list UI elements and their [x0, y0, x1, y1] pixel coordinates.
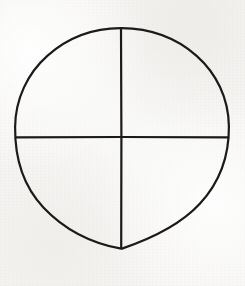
- quadrant-upper-right: [121, 28, 228, 137]
- quadrant-lower-left: [15, 137, 121, 249]
- quartered-circle-figure: [0, 0, 245, 286]
- figure-canvas: [0, 0, 245, 286]
- quadrant-lower-right: [121, 137, 229, 249]
- quadrant-upper-left: [15, 28, 121, 137]
